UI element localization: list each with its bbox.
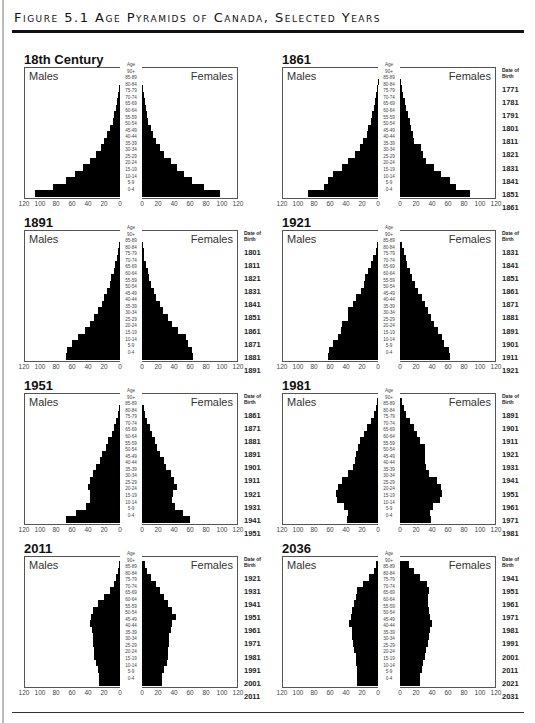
- male-bar: [90, 321, 120, 328]
- female-bar: [142, 627, 171, 634]
- female-bar: [400, 431, 417, 438]
- male-bar: [93, 470, 120, 477]
- female-bar: [142, 666, 164, 673]
- axis-tick: 120: [233, 363, 244, 370]
- date-of-birth-header: Date of Birth: [244, 394, 272, 405]
- female-bar: [400, 321, 434, 328]
- male-bar: [377, 242, 378, 249]
- female-bar: [142, 85, 143, 92]
- female-bar: [400, 118, 410, 125]
- axis-tick: 0: [376, 363, 380, 370]
- axis-tick: 40: [342, 689, 349, 696]
- female-bar: [142, 614, 176, 621]
- birth-year: 1901: [502, 338, 530, 351]
- age-labels: Age90+85-8980-8475-7970-7465-6960-6455-5…: [120, 551, 142, 682]
- male-bar: [104, 594, 120, 601]
- female-bar: [400, 138, 414, 145]
- female-bar: [400, 607, 429, 614]
- male-bar: [328, 353, 378, 360]
- males-axis: 120100806040200: [20, 200, 120, 210]
- birth-year: 1921: [244, 572, 272, 585]
- females-bars: [400, 235, 496, 360]
- axis-tick: 0: [398, 689, 402, 696]
- male-bar: [336, 490, 378, 497]
- female-bar: [142, 477, 174, 484]
- axis-tick: 20: [100, 200, 107, 207]
- females-bars: [400, 72, 496, 197]
- female-bar: [400, 647, 426, 654]
- birth-year: 1881: [502, 311, 530, 324]
- axis-tick: 0: [118, 526, 122, 533]
- females-bars: [142, 72, 238, 197]
- female-bar: [142, 640, 169, 647]
- axis-tick: 0: [398, 363, 402, 370]
- female-bar: [142, 274, 149, 281]
- axis-tick: 120: [277, 363, 288, 370]
- female-bar: [142, 647, 168, 654]
- female-bar: [400, 464, 426, 471]
- pyramid-chart: 1951MalesFemalesAge90+85-8980-8475-7970-…: [12, 378, 272, 540]
- female-bar: [400, 307, 428, 314]
- female-bar: [142, 158, 171, 165]
- axis-tick: 0: [376, 689, 380, 696]
- male-bar: [118, 568, 120, 575]
- birth-year: 1871: [502, 298, 530, 311]
- males-bars: [24, 235, 120, 360]
- birth-year: 1821: [244, 272, 272, 285]
- birth-year: 2011: [244, 690, 272, 703]
- axis-tick: 100: [475, 689, 486, 696]
- axis-tick: 120: [491, 200, 502, 207]
- male-bar: [117, 98, 120, 105]
- birth-year: 2031: [502, 690, 530, 703]
- males-bars: [282, 72, 378, 197]
- male-bar: [107, 131, 120, 138]
- birth-year: 1931: [502, 461, 530, 474]
- males-bars: [24, 561, 120, 686]
- male-bar: [369, 574, 378, 581]
- female-bar: [400, 418, 410, 425]
- male-bar: [372, 111, 378, 118]
- birth-year: 1891: [502, 325, 530, 338]
- female-bar: [142, 144, 160, 151]
- male-bar: [99, 673, 120, 680]
- axis-tick: 100: [293, 200, 304, 207]
- female-bar: [142, 561, 145, 568]
- males-bars: [24, 398, 120, 523]
- male-bar: [66, 516, 120, 523]
- female-bar: [142, 424, 150, 431]
- axis-tick: 0: [140, 200, 144, 207]
- male-bar: [363, 581, 378, 588]
- birth-year: 1971: [244, 637, 272, 650]
- pyramid-title: 1891: [24, 215, 53, 230]
- axis-tick: 20: [154, 200, 161, 207]
- female-bar: [142, 190, 220, 197]
- female-bar: [142, 594, 164, 601]
- axis-tick: 120: [277, 200, 288, 207]
- axis-tick: 20: [358, 689, 365, 696]
- female-bar: [400, 568, 414, 575]
- male-bar: [373, 255, 378, 262]
- male-bar: [356, 451, 378, 458]
- birth-year: 1801: [244, 246, 272, 259]
- male-bar: [357, 673, 378, 680]
- birth-year: 1941: [502, 474, 530, 487]
- female-bar: [400, 131, 413, 138]
- pyramid-chart: 18th CenturyMalesFemalesAge90+85-8980-84…: [12, 52, 272, 214]
- female-bar: [400, 151, 423, 158]
- male-bar: [101, 144, 120, 151]
- male-bar: [348, 158, 378, 165]
- female-bar: [142, 581, 156, 588]
- female-bar: [400, 171, 441, 178]
- pyramid-chart: 1861MalesFemalesAge90+85-8980-8475-7970-…: [270, 52, 530, 214]
- females-bars: [142, 561, 238, 686]
- axis-tick: 120: [233, 689, 244, 696]
- males-axis: 120100806040200: [278, 689, 378, 699]
- birth-year: 1871: [244, 338, 272, 351]
- female-bar: [142, 111, 147, 118]
- male-bar: [93, 607, 120, 614]
- female-bar: [400, 673, 420, 680]
- male-bar: [98, 600, 120, 607]
- male-bar: [356, 653, 378, 660]
- male-bar: [377, 85, 378, 92]
- male-bar: [116, 418, 120, 425]
